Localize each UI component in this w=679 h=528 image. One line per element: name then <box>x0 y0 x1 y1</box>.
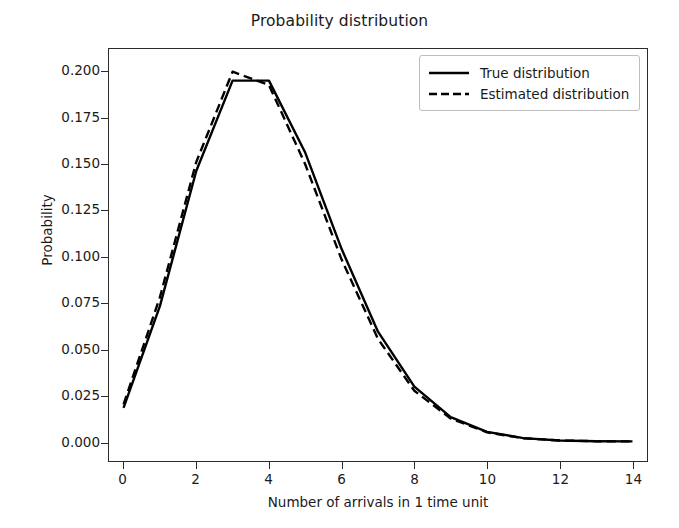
x-tick-mark <box>123 462 124 469</box>
y-tick-mark <box>101 443 108 444</box>
x-tick-label: 12 <box>540 471 580 487</box>
y-tick-label: 0.200 <box>34 62 100 78</box>
y-tick-mark <box>101 118 108 119</box>
y-tick-mark <box>101 303 108 304</box>
x-tick-mark <box>414 462 415 469</box>
y-tick-label: 0.075 <box>34 294 100 310</box>
x-tick-mark <box>560 462 561 469</box>
legend-dashed-line-icon <box>428 88 470 100</box>
legend-solid-line-icon <box>428 67 470 79</box>
legend-item-estimated-distribution: Estimated distribution <box>428 83 629 104</box>
y-tick-label: 0.025 <box>34 387 100 403</box>
y-tick-label: 0.150 <box>34 155 100 171</box>
y-tick-label: 0.000 <box>34 434 100 450</box>
x-tick-label: 2 <box>176 471 216 487</box>
x-tick-label: 14 <box>613 471 653 487</box>
legend-label-true-distribution: True distribution <box>480 65 590 81</box>
y-tick-mark <box>101 257 108 258</box>
y-tick-mark <box>101 71 108 72</box>
y-tick-label: 0.175 <box>34 109 100 125</box>
y-tick-label: 0.100 <box>34 248 100 264</box>
chart-title: Probability distribution <box>0 12 679 30</box>
x-tick-label: 4 <box>249 471 289 487</box>
y-tick-mark <box>101 396 108 397</box>
y-tick-mark <box>101 210 108 211</box>
x-tick-mark <box>269 462 270 469</box>
legend-label-estimated-distribution: Estimated distribution <box>480 86 629 102</box>
x-tick-label: 8 <box>394 471 434 487</box>
chart-figure: Probability distribution Probability Num… <box>0 0 679 528</box>
series-line-true-distribution <box>124 81 633 442</box>
x-tick-label: 10 <box>467 471 507 487</box>
y-tick-mark <box>101 350 108 351</box>
chart-legend: True distribution Estimated distribution <box>419 55 640 111</box>
x-tick-label: 0 <box>103 471 143 487</box>
x-tick-label: 6 <box>322 471 362 487</box>
series-line-estimated-distribution <box>124 72 633 442</box>
legend-item-true-distribution: True distribution <box>428 62 629 83</box>
x-tick-mark <box>487 462 488 469</box>
x-tick-mark <box>196 462 197 469</box>
x-axis-label: Number of arrivals in 1 time unit <box>108 494 648 510</box>
y-tick-mark <box>101 164 108 165</box>
x-tick-mark <box>633 462 634 469</box>
y-tick-label: 0.125 <box>34 201 100 217</box>
x-tick-mark <box>342 462 343 469</box>
y-axis-label: Probability <box>39 170 55 290</box>
y-tick-label: 0.050 <box>34 341 100 357</box>
